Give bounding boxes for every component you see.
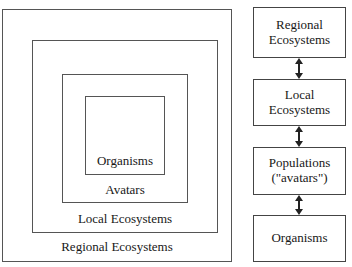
stack-box-local-ecosystems: Local Ecosystems xyxy=(253,79,346,126)
nested-ring-label-avatars: Avatars xyxy=(63,183,187,196)
stack-box-label-local-ecosystems: Local Ecosystems xyxy=(267,88,332,117)
stack-box-organisms: Organisms xyxy=(253,215,346,262)
double-arrow-icon-local-to-populations xyxy=(292,126,306,147)
nested-ring-organisms: Organisms xyxy=(85,96,165,175)
nested-ring-label-local-ecosystems: Local Ecosystems xyxy=(33,212,217,225)
double-arrow-icon-populations-to-organisms xyxy=(292,195,306,215)
stack-box-label-populations-avatars: Populations ("avatars") xyxy=(267,156,332,185)
stack-box-label-organisms: Organisms xyxy=(269,231,329,246)
nested-ring-label-organisms: Organisms xyxy=(86,154,164,167)
stack-box-regional-ecosystems: Regional Ecosystems xyxy=(253,7,346,58)
nested-ring-label-regional-ecosystems: Regional Ecosystems xyxy=(3,240,231,253)
diagram-canvas: Regional Ecosystems Local Ecosystems Ava… xyxy=(0,0,352,267)
stack-box-label-regional-ecosystems: Regional Ecosystems xyxy=(267,18,332,47)
stack-box-populations-avatars: Populations ("avatars") xyxy=(253,147,346,195)
double-arrow-icon-regional-to-local xyxy=(292,58,306,79)
